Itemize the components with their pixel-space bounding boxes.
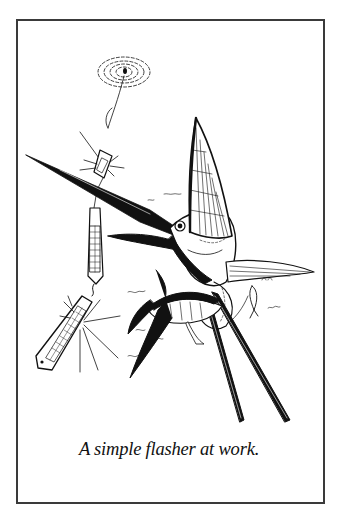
tuna-icon [128,270,222,378]
figure-caption: A simple flasher at work. [0,439,338,460]
small-flasher-lure-icon [80,150,124,178]
angled-flasher-lure-icon [36,296,120,372]
baitfish-icon [230,286,258,322]
sailfish-icon [26,118,314,422]
large-flasher-lure-icon [88,208,103,296]
